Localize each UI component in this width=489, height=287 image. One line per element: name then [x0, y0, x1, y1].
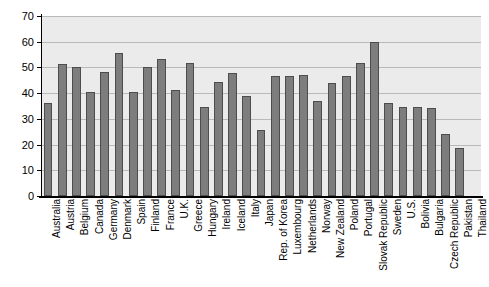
bar	[86, 92, 95, 196]
bar	[129, 92, 138, 196]
bar	[313, 101, 322, 196]
x-axis-label: Iceland	[237, 199, 247, 231]
x-axis-label: New Zealand	[336, 199, 346, 258]
x-axis-label: Rep. of Korea	[279, 199, 289, 261]
x-axis-label: Italy	[251, 199, 261, 217]
y-tick-label: 0	[0, 191, 34, 202]
bar	[242, 96, 251, 196]
y-tick-label: 60	[0, 37, 34, 48]
bar	[100, 72, 109, 196]
y-tick-label: 10	[0, 165, 34, 176]
x-axis-label: U.S.	[407, 199, 417, 218]
y-tick-label: 40	[0, 88, 34, 99]
y-tick-label: 20	[0, 140, 34, 151]
bar	[44, 103, 53, 196]
bar	[441, 134, 450, 196]
x-axis-label: Finland	[151, 199, 161, 232]
bar	[271, 76, 280, 196]
x-axis-label: Belgium	[80, 199, 90, 235]
x-axis-label: Netherlands	[308, 199, 318, 253]
bar	[200, 107, 209, 196]
bar	[328, 83, 337, 196]
x-axis-label: Pakistan	[464, 199, 474, 237]
bar	[399, 107, 408, 196]
x-axis-label: Bolivia	[421, 199, 431, 228]
bar	[58, 64, 67, 196]
bar	[115, 53, 124, 196]
x-axis-label: Denmark	[123, 199, 133, 240]
x-axis-label: Germany	[109, 199, 119, 240]
bar	[455, 148, 464, 196]
bar	[72, 67, 81, 196]
x-axis-labels: AustraliaAustriaBelgiumCanadaGermanyDenm…	[41, 199, 481, 287]
x-axis-label: U.K.	[180, 199, 190, 218]
bar	[257, 130, 266, 196]
y-tick-label: 70	[0, 11, 34, 22]
x-axis-label: Austria	[66, 199, 76, 230]
x-axis-label: Portugal	[364, 199, 374, 236]
x-axis-label: Ireland	[222, 199, 232, 230]
x-axis-label: Australia	[52, 199, 62, 238]
bar	[413, 107, 422, 196]
x-axis-label: France	[166, 199, 176, 230]
x-axis-label: Czech Republic	[450, 199, 460, 269]
bar	[171, 90, 180, 196]
x-axis-label: Luxembourg	[293, 199, 303, 255]
x-axis-label: Poland	[350, 199, 360, 230]
bar	[186, 63, 195, 196]
x-axis-label: Canada	[95, 199, 105, 234]
bar	[228, 73, 237, 196]
y-tick-label: 30	[0, 114, 34, 125]
x-axis-label: Hungary	[208, 199, 218, 237]
x-axis-label: Sweden	[393, 199, 403, 235]
bar	[214, 82, 223, 196]
bar	[342, 76, 351, 196]
x-axis-label: Spain	[137, 199, 147, 225]
x-axis-label: Norway	[322, 199, 332, 233]
bar	[143, 67, 152, 196]
x-axis-label: Greece	[194, 199, 204, 232]
bars-layer	[41, 16, 481, 196]
bar	[157, 59, 166, 196]
x-axis-label: Bulgaria	[435, 199, 445, 236]
bar	[299, 75, 308, 196]
bar	[285, 76, 294, 196]
x-axis-label: Thailand	[478, 199, 488, 237]
bar-chart: 010203040506070 AustraliaAustriaBelgiumC…	[0, 0, 489, 287]
bar	[370, 42, 379, 196]
x-axis-label: Slovak Republic	[379, 199, 389, 271]
x-axis-line	[39, 196, 483, 198]
y-tick-label: 50	[0, 62, 34, 73]
x-axis-label: Japan	[265, 199, 275, 226]
bar	[356, 63, 365, 196]
bar	[384, 103, 393, 196]
bar	[427, 108, 436, 196]
